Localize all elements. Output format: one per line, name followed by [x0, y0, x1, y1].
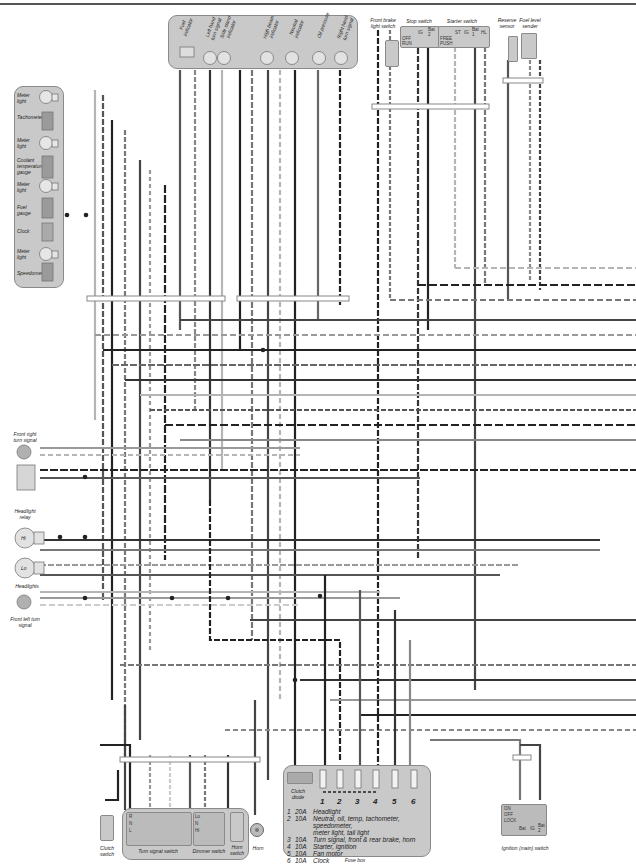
dimmer-switch-label: Dimmer switch — [190, 848, 228, 854]
turn-signal-switch — [126, 812, 192, 846]
headlight-hi-label: Hi — [21, 535, 26, 541]
fuse-number-4: 4 — [373, 797, 377, 806]
front-brake-light-switch-label: Front brake light switch — [368, 17, 398, 29]
horn-switch — [230, 812, 244, 842]
horn-switch-label: Horn switch — [226, 844, 248, 856]
clutch-diode-label: Clutch diode — [286, 788, 310, 800]
fuse-number-5: 5 — [392, 797, 396, 806]
indicator-bulbs — [168, 15, 356, 75]
starter-switch-label: Starter switch — [442, 18, 482, 24]
fuse-box-label: Fuse box — [340, 857, 370, 863]
cluster-label-meter-light-4: Meter light — [17, 248, 39, 260]
horn-label: Horn — [248, 845, 268, 851]
fuse-number-2: 2 — [337, 797, 341, 806]
turn-signal-switch-label: Turn signal switch — [128, 848, 188, 854]
stop-switch-label: Stop switch — [402, 18, 436, 24]
fuse-number-6: 6 — [411, 797, 415, 806]
meter-light-bulb-icon — [40, 91, 53, 104]
wiring-layer — [0, 0, 636, 865]
meter-light-bulb-icon — [40, 248, 53, 261]
fuse-legend: 120AHeadlight 210ANeutral, oil, temp, ta… — [287, 808, 428, 864]
left-lamps — [12, 440, 62, 620]
clutch-switch — [100, 815, 114, 841]
fuse-row — [318, 768, 418, 798]
front-brake-light-switch — [385, 40, 399, 67]
headlights-label: Headlights — [12, 583, 42, 589]
cluster-components — [38, 88, 62, 284]
horn-icon — [249, 822, 265, 838]
fuel-level-sender — [521, 33, 537, 59]
clutch-diode — [287, 772, 313, 784]
headlight-lo-label: Lo — [21, 565, 27, 571]
cluster-label-meter-light-1: Meter light — [17, 92, 39, 104]
turn-signal-bulb-icon — [17, 595, 31, 609]
fuel-level-sender-label: Fuel level sender — [518, 17, 542, 29]
front-left-turn-signal-label: Front left turn signal — [10, 616, 40, 628]
cluster-label-clock: Clock — [17, 228, 39, 234]
reserve-sensor-label: Reserve sensor — [497, 17, 517, 29]
fuse-number-1: 1 — [320, 797, 324, 806]
turn-signal-bulb-icon — [17, 445, 31, 459]
ignition-switch-label: Ignition (main) switch — [500, 845, 550, 851]
meter-light-bulb-icon — [40, 180, 53, 193]
meter-light-bulb-icon — [40, 137, 53, 150]
cluster-label-meter-light-2: Meter light — [17, 137, 39, 149]
clutch-switch-label: Clutch switch — [96, 845, 118, 857]
fuse-number-3: 3 — [355, 797, 359, 806]
reserve-sensor — [508, 36, 518, 62]
headlight-relay-label: Headlight relay — [13, 508, 37, 520]
cluster-label-meter-light-3: Meter light — [17, 181, 39, 193]
